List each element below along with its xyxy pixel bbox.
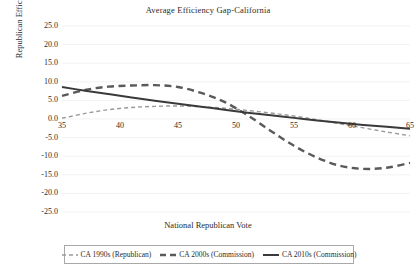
x-tick-label: 60 — [339, 122, 365, 130]
x-tick-label: 45 — [165, 122, 191, 130]
legend-label-2: CA 2000s (Commission) — [179, 250, 254, 259]
chart-legend: CA 1990s (Republican)CA 2000s (Commissio… — [64, 245, 354, 264]
x-axis-label: National Republican Vote — [0, 220, 416, 230]
x-tick-label: 55 — [281, 122, 307, 130]
x-tick-label: 65 — [397, 122, 416, 130]
legend-item-1[interactable]: CA 1990s (Republican) — [62, 250, 152, 259]
x-tick-label: 35 — [49, 122, 75, 130]
legend-item-2[interactable]: CA 2000s (Commission) — [160, 250, 254, 259]
legend-swatch-1 — [62, 252, 78, 258]
legend-item-3[interactable]: CA 2010s (Commission) — [263, 250, 357, 259]
x-tick-label: 40 — [107, 122, 133, 130]
chart-figure: Average Efficiency Gap-California Republ… — [0, 0, 416, 277]
legend-swatch-3 — [263, 252, 279, 258]
legend-label-3: CA 2010s (Commission) — [282, 250, 357, 259]
x-tick-label: 50 — [223, 122, 249, 130]
legend-label-1: CA 1990s (Republican) — [81, 250, 152, 259]
legend-swatch-2 — [160, 252, 176, 258]
plot-area — [0, 0, 416, 277]
